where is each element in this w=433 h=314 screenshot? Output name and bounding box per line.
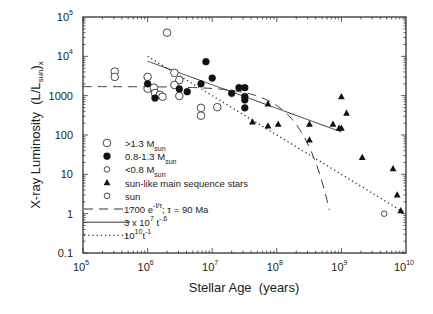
y-tick-label: 104 — [57, 48, 73, 62]
data-point — [390, 165, 397, 171]
y-axis-label-sub2: x — [36, 61, 45, 65]
legend-label-text: >1.3 M — [125, 138, 154, 149]
data-point — [203, 58, 210, 65]
x-tick-label: 1010 — [394, 259, 414, 273]
x-tick-exponent: 9 — [344, 259, 348, 266]
y-tick-label: 105 — [57, 9, 73, 23]
legend-label: <0.8 Msun — [125, 164, 166, 178]
legend-curve-text: 1700 e — [124, 204, 153, 215]
x-tick-exponent: 10 — [406, 259, 414, 266]
legend-label: sun-like main sequence stars — [125, 178, 248, 189]
y-tick-label: 1 — [67, 208, 73, 220]
legend-label-text: 0.8-1.3 M — [125, 151, 165, 162]
x-tick-base: 10 — [73, 261, 85, 273]
data-point — [184, 88, 191, 95]
x-tick-labels: 1051061071081091010 — [73, 259, 414, 273]
x-tick-exponent: 5 — [85, 259, 89, 266]
legend-curve-sup: -t/τ — [153, 202, 162, 209]
data-point — [359, 154, 366, 160]
data-point — [249, 118, 256, 124]
data-point — [343, 110, 350, 116]
x-tick-base: 10 — [394, 261, 406, 273]
data-point — [241, 84, 248, 91]
legend-marker — [103, 139, 111, 147]
data-point — [397, 207, 404, 213]
legend-label: >1.3 Msun — [125, 138, 166, 152]
legend-curve-sup2: -.6 — [159, 215, 167, 222]
curve-dashed — [83, 87, 329, 210]
legend-curve-tail: ; τ = 90 Ma — [162, 204, 209, 215]
y-tick-exponent: 5 — [69, 9, 73, 16]
legend-curve-label: 1010t-1 — [124, 228, 151, 241]
data-point — [197, 112, 205, 120]
data-point — [338, 93, 345, 99]
y-tick-exponent: 4 — [69, 48, 73, 55]
legend-marker — [104, 193, 110, 199]
data-point — [197, 104, 205, 112]
y-axis-label-main: X-ray Luminosity (L/L — [28, 82, 43, 208]
y-tick-base: 0.1 — [58, 247, 73, 259]
data-point — [241, 97, 248, 104]
y-tick-label: 1000 — [49, 90, 73, 102]
data-point — [152, 95, 159, 102]
data-point — [241, 104, 248, 111]
data-point — [228, 90, 235, 97]
curve-dotted — [148, 56, 406, 213]
legend-curve-label: 1700 e-t/τ; τ = 90 Ma — [124, 202, 209, 215]
y-tick-base: 100 — [55, 129, 73, 141]
x-tick-exponent: 7 — [214, 259, 218, 266]
legend-curve-label: 3 x 107 t-.6 — [124, 215, 167, 228]
data-point — [163, 29, 171, 37]
data-point — [176, 92, 184, 100]
y-tick-label: 100 — [55, 129, 73, 141]
legend-label: sun — [125, 191, 140, 202]
x-tick-exponent: 8 — [279, 259, 283, 266]
x-tick-label: 106 — [138, 259, 154, 273]
legend-label-text: <0.8 M — [125, 164, 154, 175]
data-point — [214, 103, 222, 111]
x-tick-label: 109 — [331, 259, 347, 273]
data-point — [330, 120, 337, 126]
y-axis-label-sub: sun — [36, 70, 45, 83]
data-point — [394, 191, 401, 197]
data-point — [144, 80, 151, 87]
legend-curve-sup2: -1 — [145, 228, 151, 235]
data-point — [381, 211, 387, 217]
y-tick-base: 10 — [61, 168, 73, 180]
legend-label-sub: sun — [165, 158, 176, 165]
data-point — [265, 100, 272, 106]
x-tick-base: 10 — [331, 261, 343, 273]
legend-label-text: sun-like main sequence stars — [125, 178, 248, 189]
x-tick-base: 10 — [267, 261, 279, 273]
y-tick-base: 10 — [57, 11, 69, 23]
legend-marker — [104, 167, 110, 173]
legend-curve-text: 3 x 10 — [124, 217, 150, 228]
x-tick-label: 108 — [267, 259, 283, 273]
y-axis-label: X-ray Luminosity (L/Lsun)x — [28, 61, 45, 209]
chart: 1051061071081091010 0.11101001000104105 … — [0, 0, 433, 314]
x-tick-label: 105 — [73, 259, 89, 273]
x-tick-base: 10 — [138, 261, 150, 273]
legend-label-text: sun — [125, 191, 140, 202]
data-point — [198, 80, 205, 87]
y-tick-base: 10 — [57, 50, 69, 62]
data-point — [265, 122, 272, 128]
y-tick-base: 1000 — [49, 90, 73, 102]
data-point — [111, 73, 119, 81]
data-point — [176, 86, 183, 93]
legend-marker — [104, 153, 111, 160]
data-point — [275, 120, 282, 126]
x-tick-base: 10 — [202, 261, 214, 273]
legend-curve-text: 10 — [124, 230, 135, 241]
y-tick-base: 1 — [67, 208, 73, 220]
y-tick-label: 0.1 — [58, 247, 73, 259]
legend-marker — [104, 179, 111, 185]
data-point — [209, 75, 216, 82]
data-point — [159, 93, 167, 101]
data-point — [144, 73, 152, 81]
data-point — [306, 136, 313, 142]
x-tick-exponent: 6 — [150, 259, 154, 266]
data-point — [171, 69, 179, 77]
y-tick-labels: 0.11101001000104105 — [49, 9, 74, 259]
x-axis-label: Stellar Age (years) — [189, 280, 300, 295]
